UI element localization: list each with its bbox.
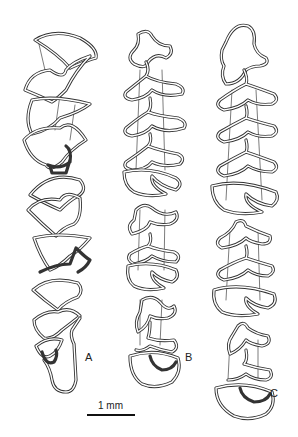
specimen-label-a: A — [85, 352, 92, 363]
specimen-c-drawing — [212, 25, 277, 418]
scale-bar — [87, 414, 135, 416]
specimen-drawings — [0, 0, 298, 437]
scale-bar-label: 1 mm — [98, 401, 123, 411]
specimen-label-b: B — [185, 352, 192, 363]
specimen-a-drawing — [24, 33, 96, 392]
figure: A B C 1 mm — [0, 0, 298, 437]
specimen-b-drawing — [124, 31, 185, 386]
specimen-label-c: C — [270, 388, 278, 399]
